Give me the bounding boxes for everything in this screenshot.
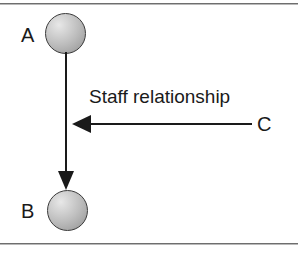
- node-a-sphere[interactable]: [45, 13, 86, 54]
- edge-c-to-line-line[interactable]: [80, 123, 252, 125]
- node-b-sphere[interactable]: [47, 190, 88, 231]
- edge-c-to-line-arrowhead-icon: [72, 115, 91, 133]
- edge-caption-staff-relationship: Staff relationship: [89, 86, 230, 108]
- diagram-canvas: A Staff relationship C B: [0, 0, 298, 254]
- edge-a-to-b-line[interactable]: [65, 52, 67, 175]
- edge-a-to-b-arrowhead-icon: [58, 171, 74, 190]
- top-divider-rule: [0, 3, 298, 5]
- node-b-label: B: [21, 201, 34, 221]
- node-a-label: A: [21, 25, 34, 45]
- actor-c-label: C: [257, 114, 271, 134]
- bottom-divider-rule: [0, 243, 298, 245]
